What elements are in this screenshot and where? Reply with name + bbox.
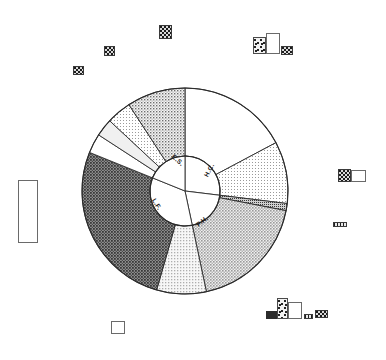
mark-br-dark <box>304 314 313 319</box>
mark-tr-speck <box>253 37 266 54</box>
mark-br-speck <box>277 298 288 319</box>
mark-tr-white <box>266 33 280 54</box>
mark-br-white <box>288 302 302 319</box>
mark-right-bar <box>333 222 347 227</box>
mark-top-left-small <box>73 66 84 75</box>
mark-top-mid <box>104 46 115 56</box>
mark-tr-small <box>281 46 293 55</box>
mark-left-tall-box <box>18 180 38 243</box>
mark-bottom-left-box <box>111 321 125 334</box>
mark-right-patch <box>338 169 351 182</box>
mark-top-right-large <box>159 25 172 39</box>
mark-right-box <box>351 170 366 182</box>
pie-chart-figure <box>0 0 386 360</box>
mark-br-box <box>315 310 328 318</box>
